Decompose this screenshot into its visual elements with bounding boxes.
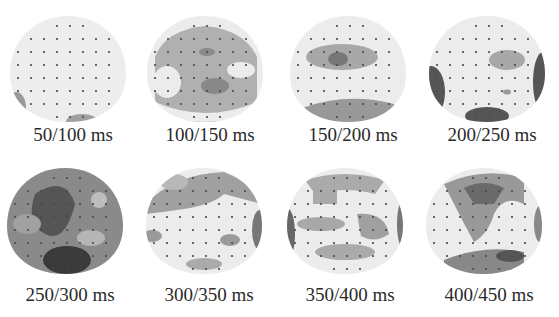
time-window-label: 100/150 ms (145, 124, 275, 146)
time-window-label: 350/400 ms (285, 284, 415, 306)
time-window-label: 50/100 ms (8, 124, 138, 146)
time-window-label: 300/350 ms (144, 284, 274, 306)
topomap-head-2 (145, 12, 265, 124)
time-window-label: 250/300 ms (5, 284, 135, 306)
topomap-head-8 (424, 164, 544, 276)
topomap-head-1 (8, 12, 128, 124)
topomap-head-6 (144, 164, 264, 276)
topomap-head-3 (288, 12, 408, 124)
time-window-label: 200/250 ms (427, 124, 557, 146)
time-window-label: 150/200 ms (288, 124, 418, 146)
time-window-label: 400/450 ms (424, 284, 554, 306)
topomap-head-7 (285, 164, 405, 276)
topomap-head-5 (5, 164, 125, 276)
topomap-head-4 (427, 12, 547, 124)
